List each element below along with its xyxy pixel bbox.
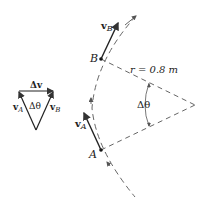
radius-label: r = 0.8 m xyxy=(130,64,178,75)
triangle-angle-label: Δθ xyxy=(29,101,41,111)
triangle-vB-label: vB xyxy=(49,102,60,114)
circular-path xyxy=(91,16,136,197)
velocity-A-arrow xyxy=(84,113,101,150)
point-B-label: B xyxy=(89,52,98,65)
point-A-label: A xyxy=(88,148,97,161)
velocity-diagram: B A vB vA r = 0.8 m Δθ Δv vA vB Δθ xyxy=(0,0,209,199)
velocity-triangle: Δv vA vB Δθ xyxy=(12,80,60,130)
triangle-delta-v-label: Δv xyxy=(30,80,43,90)
velocity-B-label: vB xyxy=(100,20,113,33)
triangle-vA-label: vA xyxy=(12,102,23,114)
angle-label: Δθ xyxy=(137,99,150,110)
velocity-A-label: vA xyxy=(74,118,87,131)
diagram-canvas: B A vB vA r = 0.8 m Δθ Δv vA vB Δθ xyxy=(0,0,209,199)
path-direction-arrow-icon xyxy=(125,16,136,25)
path-direction-arrow-icon xyxy=(107,162,110,166)
